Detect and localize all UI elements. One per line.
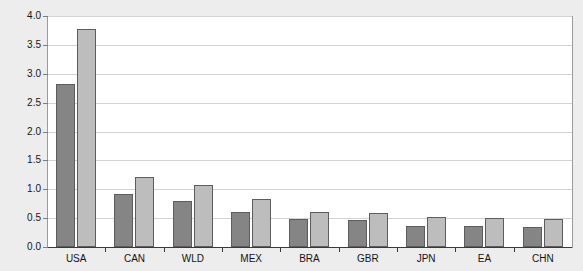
bar-forward-looking [523,227,542,247]
bar-group [47,16,105,247]
y-tick-label: 0.5 [8,213,41,223]
x-tick-label: MEX [222,253,280,264]
y-tick-label: 1.5 [8,155,41,165]
bar-forward-looking [114,194,133,247]
y-tick-label: 1.0 [8,184,41,194]
bar-backward-looking [194,185,213,247]
x-tick-mark [397,247,398,252]
bar-backward-looking [427,217,446,247]
y-tick-label: 2.0 [8,127,41,137]
bar-forward-looking [406,226,425,247]
bar-backward-looking [544,219,563,247]
x-tick-label: EA [455,253,513,264]
x-tick-mark [164,247,165,252]
x-tick-mark [514,247,515,252]
bar-group [397,16,455,247]
bar-group [222,16,280,247]
bar-group [164,16,222,247]
bar-forward-looking [56,84,75,247]
x-tick-mark [455,247,456,252]
x-tick-label: BRA [280,253,338,264]
bar-group [105,16,163,247]
x-tick-label: GBR [339,253,397,264]
x-tick-label: CAN [105,253,163,264]
bar-backward-looking [77,29,96,247]
bar-groups [47,16,572,247]
bar-group [514,16,572,247]
y-tick-label: 4.0 [8,11,41,21]
bar-forward-looking [348,220,367,247]
bar-backward-looking [369,213,388,247]
bar-forward-looking [231,212,250,247]
y-tick-label: 3.5 [8,40,41,50]
bar-forward-looking [173,201,192,247]
x-tick-label: CHN [514,253,572,264]
x-tick-mark [339,247,340,252]
bar-forward-looking [289,219,308,247]
y-tick-label: 0.0 [8,242,41,252]
bar-group [455,16,513,247]
bar-backward-looking [485,218,504,247]
bar-chart: Forward-looking consumers Backward-looki… [0,0,583,271]
x-tick-mark [105,247,106,252]
bar-group [280,16,338,247]
bar-backward-looking [252,199,271,248]
x-tick-mark [280,247,281,252]
x-tick-label: JPN [397,253,455,264]
bar-group [339,16,397,247]
bar-backward-looking [135,177,154,247]
x-tick-label: USA [47,253,105,264]
x-axis-labels: USACANWLDMEXBRAGBRJPNEACHN [47,253,572,267]
y-tick-label: 3.0 [8,69,41,79]
y-tick-mark [43,247,48,248]
x-tick-label: WLD [164,253,222,264]
x-tick-mark [222,247,223,252]
bar-forward-looking [464,226,483,247]
bar-backward-looking [310,212,329,247]
y-tick-label: 2.5 [8,98,41,108]
